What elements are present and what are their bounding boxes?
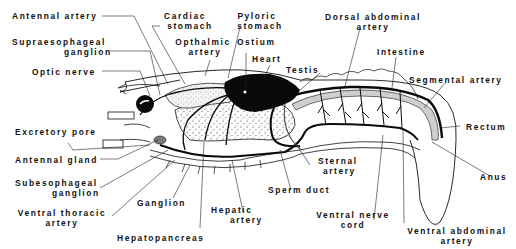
anatomy-diagram: Antennal artery Cardiac stomach Pyloric … xyxy=(0,0,516,249)
label-heart: Heart xyxy=(252,54,281,64)
label-ventral-abdominal-artery-2: artery xyxy=(398,236,516,246)
label-pyloric-stomach-1: Pyloric xyxy=(222,11,292,21)
label-ostium: Ostium xyxy=(237,37,275,47)
label-cardiac-stomach-2: stomach xyxy=(155,21,225,31)
label-segmental-artery: Segmental artery xyxy=(409,75,503,85)
label-testis: Testis xyxy=(286,65,319,75)
label-ganglion: Ganglion xyxy=(137,198,186,208)
label-hepatopancreas: Hepatopancreas xyxy=(117,233,205,243)
label-hepatic-artery-2: artery xyxy=(230,215,263,225)
label-sternal-artery-2: artery xyxy=(323,166,356,176)
label-hepatic-artery-1: Hepatic xyxy=(211,205,252,215)
label-supraesophageal-ganglion-2: ganglion xyxy=(64,47,112,57)
ostium-shape xyxy=(244,91,247,94)
label-opthalmic-artery-2: artery xyxy=(170,47,240,57)
label-ventral-thoracic-artery-1: Ventral thoracic xyxy=(12,208,112,218)
label-ventral-abdominal-artery-1: Ventral abdominal xyxy=(398,226,516,236)
abdominal-muscle-band xyxy=(292,90,438,140)
label-optic-nerve: Optic nerve xyxy=(32,67,96,77)
label-opthalmic-artery-1: Opthalmic xyxy=(168,37,238,47)
label-antennal-gland: Antennal gland xyxy=(15,155,98,165)
label-pyloric-stomach-2: stomach xyxy=(225,21,295,31)
label-excretory-pore: Excretory pore xyxy=(15,127,97,137)
label-ventral-nerve-cord-2: cord xyxy=(303,220,403,230)
label-supraesophageal-ganglion-1: Supraesophageal xyxy=(12,37,106,47)
label-anus: Anus xyxy=(480,172,507,182)
label-intestine: Intestine xyxy=(377,47,426,57)
label-subesophageal-ganglion-2: ganglion xyxy=(52,188,100,198)
label-subesophageal-ganglion-1: Subesophageal xyxy=(15,178,98,188)
label-ventral-thoracic-artery-2: artery xyxy=(12,218,112,228)
label-rectum: Rectum xyxy=(466,122,506,132)
label-sperm-duct: Sperm duct xyxy=(268,185,330,195)
antennal-gland-shape xyxy=(154,136,166,144)
label-cardiac-stomach-1: Cardiac xyxy=(150,11,220,21)
label-sternal-artery-1: Sternal xyxy=(318,156,358,166)
head-appendages xyxy=(103,112,150,148)
legs xyxy=(166,160,261,174)
label-dorsal-abdominal-artery-1: Dorsal abdominal xyxy=(318,12,428,22)
label-ventral-nerve-cord-1: Ventral nerve xyxy=(303,210,403,220)
eye xyxy=(136,95,154,113)
label-dorsal-abdominal-artery-2: artery xyxy=(318,22,428,32)
label-antennal-artery: Antennal artery xyxy=(12,11,97,21)
